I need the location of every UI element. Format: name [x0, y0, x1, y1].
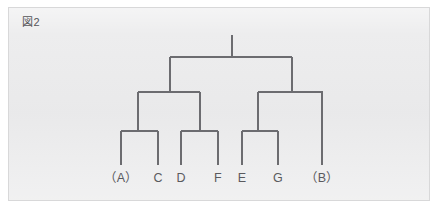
- dendrogram-svg: （A）CDFEG（B）: [0, 0, 445, 214]
- leaf-label-G: G: [273, 171, 283, 185]
- leaf-label-E: E: [238, 171, 247, 185]
- dendrogram-leaf-labels: （A）CDFEG（B）: [104, 171, 340, 185]
- leaf-label-F: F: [214, 171, 222, 185]
- leaf-label-C: C: [153, 171, 162, 185]
- leaf-label-A: （A）: [104, 171, 139, 185]
- figure-root: 図2 （A）CDFEG（B）: [0, 0, 445, 214]
- leaf-label-D: D: [176, 171, 185, 185]
- leaf-label-B: （B）: [305, 171, 340, 185]
- dendrogram-branches: [121, 35, 323, 165]
